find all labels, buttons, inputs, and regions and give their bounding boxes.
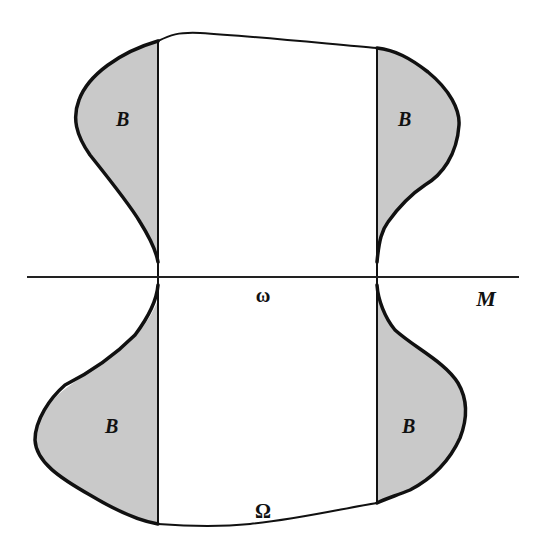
region-b-bottom-left (35, 300, 158, 524)
label-omega-lower: ω (256, 284, 271, 306)
region-b-top-right (377, 48, 459, 262)
omega-top-boundary (158, 33, 377, 48)
label-omega-upper: Ω (255, 500, 271, 522)
label-m: M (475, 286, 497, 311)
diagram-canvas: B B B B ω Ω M (0, 0, 544, 554)
label-b-bottom-left: B (104, 415, 118, 437)
label-b-top-left: B (115, 108, 129, 130)
label-b-top-right: B (397, 108, 411, 130)
label-b-bottom-right: B (401, 415, 415, 437)
